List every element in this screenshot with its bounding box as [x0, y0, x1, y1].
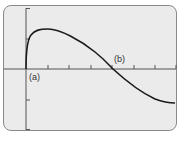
label-a: (a) — [29, 73, 40, 82]
label-b: (b) — [114, 55, 125, 64]
graph-plot — [0, 0, 180, 141]
